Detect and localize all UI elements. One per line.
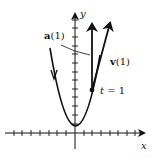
- acceleration-label-arg: (1): [50, 30, 64, 41]
- point-label-eq: = 1: [104, 85, 125, 96]
- diagram-canvas: y x a(1) v(1) t = 1: [0, 0, 153, 159]
- point-t1: [90, 88, 95, 93]
- acceleration-label: a(1): [44, 30, 65, 41]
- velocity-label-arg: (1): [116, 56, 130, 67]
- velocity-vector: [92, 23, 110, 90]
- x-axis-label: x: [141, 140, 147, 151]
- point-label: t = 1: [100, 85, 125, 96]
- velocity-label: v(1): [109, 56, 130, 67]
- y-axis-label: y: [79, 8, 86, 19]
- y-axis: [72, 14, 78, 149]
